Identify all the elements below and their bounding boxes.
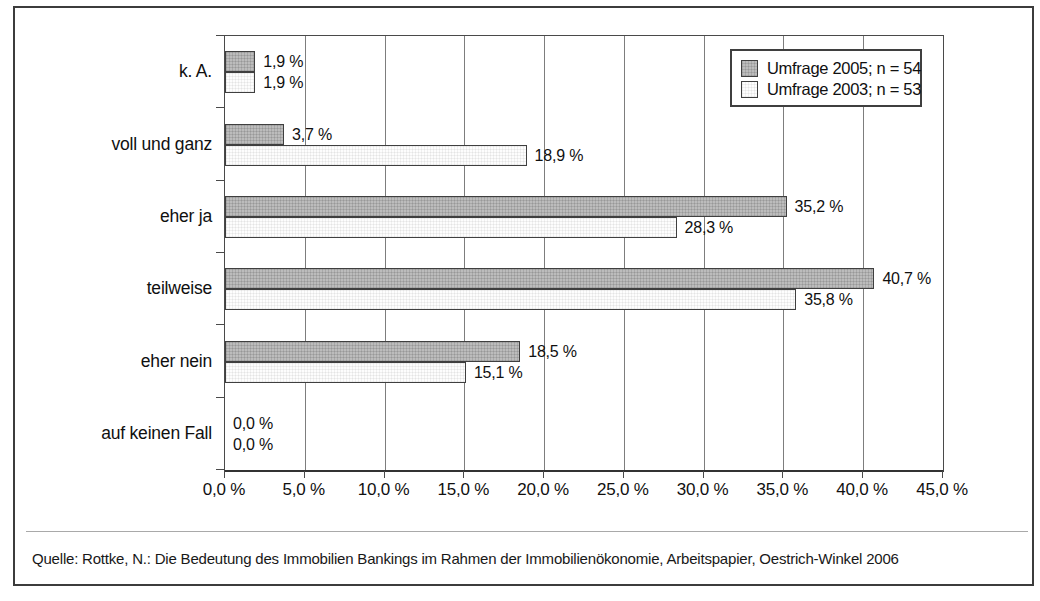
bar-value-label: 28,3 % (685, 217, 734, 238)
x-tick-label: 35,0 % (737, 480, 827, 500)
legend-item: Umfrage 2003; n = 53 (741, 79, 912, 99)
bar-2003 (225, 289, 796, 310)
x-tick-label: 0,0 % (179, 480, 269, 500)
x-axis-tick (224, 471, 225, 478)
y-axis-tick (216, 252, 224, 253)
x-axis-tick (304, 471, 305, 478)
x-axis-tick (862, 471, 863, 478)
gridline (305, 36, 306, 470)
source-note: Quelle: Rottke, N.: Die Bedeutung des Im… (32, 550, 1022, 567)
legend-swatch-2005 (741, 60, 758, 77)
bar-2005 (225, 341, 520, 362)
bar-value-label: 18,5 % (528, 341, 577, 362)
x-tick-label: 25,0 % (578, 480, 668, 500)
category-label: voll und ganz (22, 133, 212, 154)
y-axis-tick (216, 469, 224, 470)
legend-item-label: Umfrage 2003; n = 53 (767, 80, 921, 99)
legend: Umfrage 2005; n = 54Umfrage 2003; n = 53 (730, 49, 922, 107)
bar-value-label: 1,9 % (263, 51, 303, 72)
x-axis-tick (463, 471, 464, 478)
y-axis-tick (216, 107, 224, 108)
chart-frame: 1,9 %1,9 %3,7 %18,9 %35,2 %28,3 %40,7 %3… (13, 6, 1034, 586)
gridline (704, 36, 705, 470)
y-axis-tick (216, 35, 224, 36)
bar-2005 (225, 196, 787, 217)
y-axis-tick (216, 180, 224, 181)
x-tick-label: 15,0 % (418, 480, 508, 500)
legend-swatch-2003 (741, 81, 758, 98)
gridline (624, 36, 625, 470)
gridline (544, 36, 545, 470)
bar-2003 (225, 362, 466, 383)
x-tick-label: 30,0 % (658, 480, 748, 500)
bar-value-label: 0,0 % (233, 413, 273, 434)
x-axis-tick (703, 471, 704, 478)
gridline (464, 36, 465, 470)
bar-2003 (225, 72, 255, 93)
bar-value-label: 15,1 % (474, 362, 523, 383)
source-separator-line (26, 531, 1028, 532)
bar-value-label: 35,2 % (795, 196, 844, 217)
bar-value-label: 18,9 % (535, 145, 584, 166)
bar-2005 (225, 268, 874, 289)
x-tick-label: 45,0 % (897, 480, 987, 500)
x-axis-tick (942, 471, 943, 478)
category-label: eher ja (22, 205, 212, 226)
bar-2005 (225, 51, 255, 72)
bar-value-label: 3,7 % (292, 124, 332, 145)
legend-item-label: Umfrage 2005; n = 54 (767, 59, 921, 78)
y-axis-tick (216, 324, 224, 325)
scanned-chart-page: 1,9 %1,9 %3,7 %18,9 %35,2 %28,3 %40,7 %3… (0, 0, 1040, 601)
x-axis-tick (384, 471, 385, 478)
x-tick-label: 5,0 % (259, 480, 349, 500)
x-tick-label: 40,0 % (817, 480, 907, 500)
x-tick-label: 10,0 % (339, 480, 429, 500)
bar-value-label: 35,8 % (804, 289, 853, 310)
category-label: eher nein (22, 350, 212, 371)
x-tick-label: 20,0 % (498, 480, 588, 500)
y-axis-tick (216, 397, 224, 398)
x-axis-tick (543, 471, 544, 478)
x-axis-tick (782, 471, 783, 478)
x-axis-tick (623, 471, 624, 478)
bar-2003 (225, 217, 677, 238)
legend-item: Umfrage 2005; n = 54 (741, 58, 912, 78)
category-label: auf keinen Fall (22, 422, 212, 443)
bar-2003 (225, 145, 527, 166)
bar-2005 (225, 124, 284, 145)
category-label: teilweise (22, 278, 212, 299)
bar-value-label: 0,0 % (233, 434, 273, 455)
bar-value-label: 1,9 % (263, 72, 303, 93)
bar-value-label: 40,7 % (882, 268, 931, 289)
gridline (385, 36, 386, 470)
category-label: k. A. (22, 61, 212, 82)
